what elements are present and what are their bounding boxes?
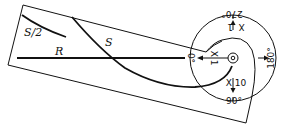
label-x10: X 10 — [226, 78, 247, 88]
card-left-edge — [8, 5, 23, 65]
arrow-90-head — [231, 88, 236, 93]
pivot-outer — [228, 53, 238, 63]
diagram-canvas: S/2 R S 0° X 1 X .1 270° X 10 90° 180° — [0, 0, 289, 131]
label-180-deg: 180° — [266, 47, 276, 69]
pivot-inner — [231, 56, 235, 60]
label-270-deg: 270° — [221, 9, 243, 19]
s-spiral-curve — [72, 17, 232, 87]
label-r: R — [54, 45, 63, 58]
label-x-point1: X .1 — [227, 22, 245, 32]
label-x1: X 1 — [209, 51, 219, 66]
label-s-half: S/2 — [24, 26, 42, 39]
label-90-deg: 90° — [226, 96, 242, 106]
label-s: S — [105, 36, 113, 49]
arrow-0-head — [197, 56, 203, 61]
label-0-deg: 0° — [186, 53, 196, 63]
